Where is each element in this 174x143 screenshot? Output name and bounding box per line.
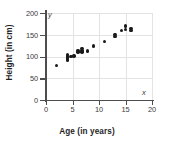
x-tick-label: 5: [63, 105, 83, 114]
gridline-horizontal: [46, 57, 152, 58]
y-tick-label: 200: [16, 9, 38, 18]
data-point: [76, 49, 79, 52]
gridline-vertical: [152, 13, 153, 100]
y-tick-mark: [40, 78, 45, 79]
y-tick-mark: [40, 13, 45, 14]
data-point: [103, 40, 106, 43]
x-tick-label: 10: [89, 105, 109, 114]
y-tick-mark: [40, 35, 45, 36]
y-tick-label: 0: [16, 96, 38, 105]
data-point: [124, 24, 127, 27]
x-tick-label: 20: [142, 105, 162, 114]
y-axis-line: [45, 10, 47, 102]
x-tick-label: 15: [116, 105, 136, 114]
data-point: [124, 28, 127, 31]
data-point: [92, 44, 95, 47]
data-point: [120, 29, 123, 32]
data-point: [55, 64, 58, 67]
y-tick-label: 100: [16, 52, 38, 61]
gridline-horizontal: [46, 13, 152, 14]
x-axis-title: Age (in years): [0, 127, 174, 136]
data-point: [129, 27, 132, 30]
y-axis-letter: y: [48, 10, 52, 19]
y-tick-label: 50: [16, 74, 38, 83]
data-point: [86, 49, 89, 52]
scatter-plot-chart: 050100150200 05101520 y x Height (in cm)…: [0, 0, 174, 143]
x-tick-label: 0: [36, 105, 56, 114]
y-tick-mark: [40, 57, 45, 58]
gridline-horizontal: [46, 35, 152, 36]
y-tick-mark: [40, 100, 45, 101]
plot-area: [46, 13, 152, 100]
y-tick-label: 150: [16, 31, 38, 40]
gridline-horizontal: [46, 78, 152, 79]
x-axis-letter: x: [142, 88, 146, 97]
data-point: [72, 54, 75, 57]
y-axis-title: Height (in cm): [5, 13, 14, 93]
